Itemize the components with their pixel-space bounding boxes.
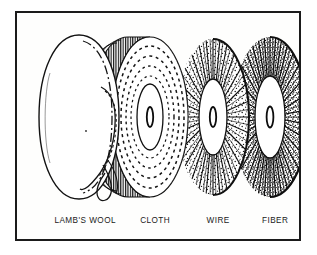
arbor-hole: [267, 107, 274, 128]
label-row: LAMB'S WOOL BUFFER CLOTH BUFFER WIRE BRU…: [17, 201, 299, 239]
illustration-frame: LAMB'S WOOL BUFFER CLOTH BUFFER WIRE BRU…: [15, 11, 301, 241]
label-line-1: FIBER: [262, 216, 288, 225]
arbor-hole: [210, 107, 216, 127]
label-line-2: BUFFER: [107, 240, 187, 241]
label-line-1: CLOTH: [140, 216, 170, 225]
wheel-lambs-wool-buffer: [39, 35, 119, 200]
label-line-2: BRUSH: [232, 240, 301, 241]
label-line-2: BUFFER: [17, 240, 137, 241]
label-line-1: WIRE: [207, 216, 230, 225]
arbor-hole: [147, 107, 153, 127]
label-line-2: BRUSH: [175, 240, 245, 241]
label-fiber-brush: FIBER BRUSH: [232, 201, 301, 241]
